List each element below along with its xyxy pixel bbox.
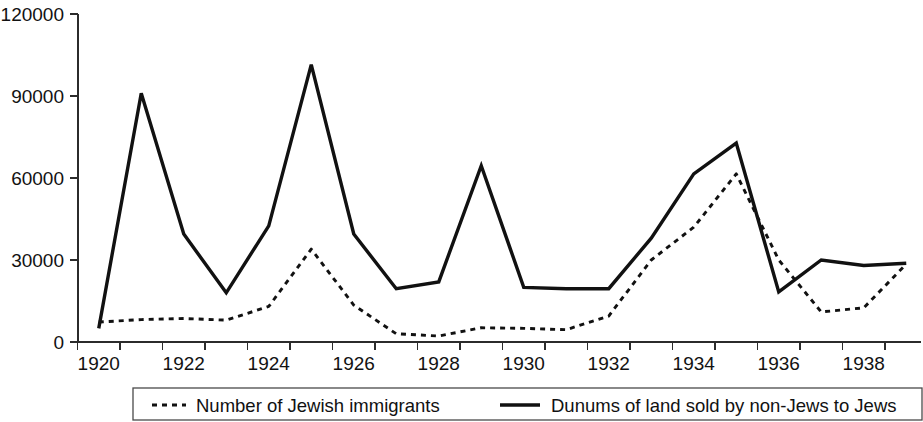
- y-axis-tick-label: 120000: [1, 4, 64, 25]
- x-axis-tick-marks: [78, 342, 886, 350]
- x-axis-tick-label: 1922: [163, 353, 205, 374]
- x-axis-tick-label: 1938: [843, 353, 885, 374]
- x-axis-tick-label: 1932: [588, 353, 630, 374]
- y-axis-tick-label: 60000: [11, 168, 64, 189]
- x-axis-tick-label: 1936: [758, 353, 800, 374]
- y-axis-tick-label: 90000: [11, 86, 64, 107]
- x-axis-tick-label: 1928: [418, 353, 460, 374]
- y-axis-tick-label: 30000: [11, 250, 64, 271]
- x-axis-tick-label: 1934: [673, 353, 716, 374]
- legend-label-land-sold: Dunums of land sold by non-Jews to Jews: [551, 395, 897, 416]
- y-axis-tick-label: 0: [53, 332, 64, 353]
- y-axis-tick-labels: 0300006000090000120000: [1, 4, 64, 353]
- chart-container: 0300006000090000120000 19201922192419261…: [0, 0, 923, 422]
- legend-label-jewish-immigrants: Number of Jewish immigrants: [196, 395, 440, 416]
- chart-legend: Number of Jewish immigrants Dunums of la…: [133, 388, 922, 420]
- x-axis-tick-label: 1930: [503, 353, 545, 374]
- x-axis-tick-label: 1926: [333, 353, 375, 374]
- x-axis-tick-label: 1924: [248, 353, 291, 374]
- series-line-land-sold: [99, 65, 907, 329]
- line-chart: 0300006000090000120000 19201922192419261…: [0, 0, 923, 422]
- x-axis-tick-labels: 1920192219241926192819301932193419361938: [78, 353, 885, 374]
- x-axis-tick-label: 1920: [78, 353, 120, 374]
- y-axis-tick-marks: [70, 14, 78, 342]
- series-line-jewish-immigrants: [99, 174, 907, 336]
